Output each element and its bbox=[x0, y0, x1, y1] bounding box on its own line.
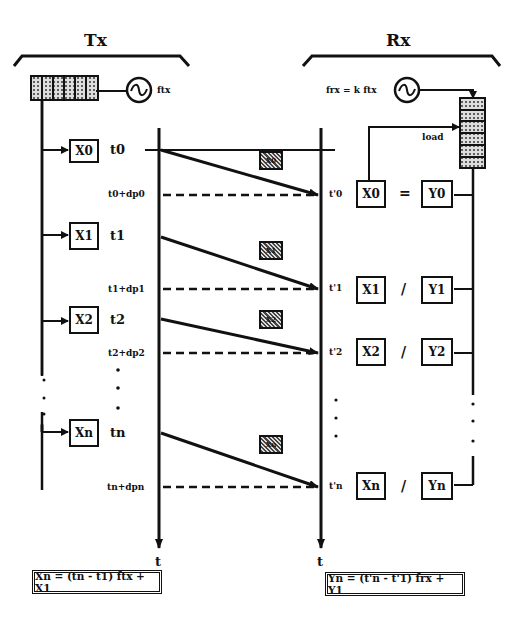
rx-frequency-label: frx = k ftx bbox=[326, 86, 377, 95]
tx-value-box-2: X2 bbox=[69, 306, 99, 334]
tx-formula: Xn = (tn - t1) ftx + X1 bbox=[32, 570, 162, 594]
arrival-label-n: tn+dpn bbox=[107, 483, 144, 492]
rx-x-box-0: X0 bbox=[356, 180, 386, 208]
relation-1: / bbox=[401, 281, 406, 297]
rx-x-box-n: Xn bbox=[356, 472, 386, 500]
relation-0: = bbox=[399, 185, 411, 201]
rx-formula: Yn = (t'n - t'1) frx + Y1 bbox=[325, 572, 465, 596]
tx-counter-register bbox=[31, 76, 98, 100]
tx-time-label-0: t0 bbox=[110, 143, 125, 156]
rx-x-box-1: X1 bbox=[356, 276, 386, 304]
tx-frequency-label: ftx bbox=[157, 86, 170, 95]
arrival-label-0: t0+dp0 bbox=[108, 190, 145, 199]
rx-y-box-0: Y0 bbox=[421, 180, 453, 208]
rx-title: Rx bbox=[386, 32, 410, 49]
arrival-label-2: t2+dp2 bbox=[108, 349, 145, 358]
rx-time-label-1: t'1 bbox=[329, 284, 342, 293]
rx-time-label-n: t'n bbox=[329, 482, 342, 491]
rx-x-box-2: X2 bbox=[356, 338, 386, 366]
rx-counter-register bbox=[460, 98, 485, 168]
relation-2: / bbox=[401, 344, 406, 360]
tx-value-box-1: X1 bbox=[69, 222, 99, 250]
rx-y-box-1: Y1 bbox=[421, 276, 453, 304]
rx-time-label-2: t'2 bbox=[329, 348, 342, 357]
tx-time-label-2: t2 bbox=[110, 313, 125, 326]
load-label: load bbox=[422, 133, 444, 142]
rx-y-box-2: Y2 bbox=[421, 338, 453, 366]
rx-time-label-0: t'0 bbox=[329, 190, 342, 199]
packet-n: Xn bbox=[259, 435, 283, 454]
tx-value-box-0: X0 bbox=[69, 139, 99, 163]
tx-time-label-n: tn bbox=[110, 426, 125, 439]
packet-2: X2 bbox=[259, 310, 283, 329]
rx-y-box-n: Yn bbox=[421, 472, 453, 500]
relation-n: / bbox=[401, 478, 406, 494]
packet-1: X1 bbox=[259, 241, 283, 260]
tx-title: Tx bbox=[84, 32, 107, 49]
tx-axis-label: t bbox=[155, 555, 161, 568]
tx-time-label-1: t1 bbox=[110, 229, 125, 242]
packet-0: X0 bbox=[259, 151, 283, 170]
arrival-label-1: t1+dp1 bbox=[108, 285, 145, 294]
rx-axis-label: t bbox=[317, 555, 323, 568]
tx-value-box-n: Xn bbox=[69, 419, 99, 447]
